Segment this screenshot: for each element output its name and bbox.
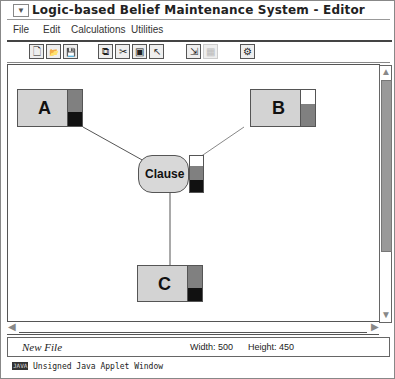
horizontal-scrollbar[interactable]: ◀ ▶ xyxy=(7,321,379,335)
canvas-width: Width: 500 xyxy=(190,342,233,352)
node-a[interactable]: A xyxy=(17,89,68,127)
grid-icon: ▦ xyxy=(206,46,215,57)
clause-belief-bar xyxy=(189,155,204,193)
save-file-button[interactable]: 💾 xyxy=(63,44,78,59)
menu-utilities[interactable]: Utilities xyxy=(131,24,163,35)
node-b-belief-bar xyxy=(300,89,316,127)
copy-button[interactable]: ⧉ xyxy=(98,44,113,59)
file-name: New File xyxy=(22,341,62,353)
open-folder-icon: 📂 xyxy=(49,48,59,57)
settings-button[interactable]: ⚙ xyxy=(240,44,255,59)
toolbar: 🗋 📂 💾 ⧉ ✂ ▣ ↖ ⇲ ▦ ⚙ xyxy=(7,42,390,63)
node-c[interactable]: C xyxy=(137,265,188,302)
applet-warning-text: Unsigned Java Applet Window xyxy=(33,362,163,371)
node-b[interactable]: B xyxy=(250,89,301,127)
title-bar: ▼ Logic-based Belief Maintenance System … xyxy=(7,2,390,20)
node-b-label: B xyxy=(272,98,285,119)
scroll-down-arrow-icon[interactable]: ▼ xyxy=(381,310,391,320)
arrange-arrows-icon: ⇲ xyxy=(190,46,198,57)
window-title: Logic-based Belief Maintenance System - … xyxy=(7,3,390,17)
arrange-button[interactable]: ⇲ xyxy=(186,44,201,59)
clause-label: Clause xyxy=(145,167,184,181)
pointer-scissors-icon: ↖ xyxy=(153,46,161,57)
node-a-belief-bar xyxy=(67,89,83,127)
diagram-canvas[interactable]: A B Clause C xyxy=(7,64,380,322)
menu-file[interactable]: File xyxy=(13,24,29,35)
copy-icon: ⧉ xyxy=(102,46,109,57)
cut-button[interactable]: ✂ xyxy=(115,44,130,59)
node-a-label: A xyxy=(38,98,51,119)
status-bar: New File Width: 500 Height: 450 xyxy=(7,337,390,357)
scroll-right-arrow-icon[interactable]: ▶ xyxy=(371,322,379,332)
canvas-height: Height: 450 xyxy=(248,342,294,352)
scroll-left-arrow-icon[interactable]: ◀ xyxy=(8,322,16,332)
select-node-icon: ▣ xyxy=(135,46,144,57)
clause-node[interactable]: Clause xyxy=(138,155,189,193)
open-file-button[interactable]: 📂 xyxy=(46,44,61,59)
grid-button[interactable]: ▦ xyxy=(203,44,218,59)
vertical-scroll-thumb[interactable] xyxy=(381,80,392,252)
java-badge-icon: JAVA xyxy=(12,362,28,370)
editor-window: ▼ Logic-based Belief Maintenance System … xyxy=(0,0,395,379)
cut-pointer-button[interactable]: ↖ xyxy=(149,44,164,59)
new-file-icon: 🗋 xyxy=(33,46,41,57)
menu-edit[interactable]: Edit xyxy=(43,24,60,35)
scroll-up-arrow-icon[interactable]: ▲ xyxy=(381,67,391,77)
horizontal-scroll-track[interactable] xyxy=(19,332,367,333)
node-c-label: C xyxy=(158,274,171,295)
vertical-scrollbar[interactable]: ▲ ▼ xyxy=(379,65,392,323)
gear-icon: ⚙ xyxy=(243,46,252,57)
save-disk-icon: 💾 xyxy=(66,48,76,57)
select-node-button[interactable]: ▣ xyxy=(132,44,147,59)
scissors-icon: ✂ xyxy=(119,46,127,57)
new-file-button[interactable]: 🗋 xyxy=(29,44,44,59)
node-c-belief-bar xyxy=(187,265,203,302)
menu-bar: File Edit Calculations Utilities xyxy=(7,20,392,42)
menu-calculations[interactable]: Calculations xyxy=(71,24,125,35)
applet-warning-bar: JAVA Unsigned Java Applet Window xyxy=(7,360,390,376)
